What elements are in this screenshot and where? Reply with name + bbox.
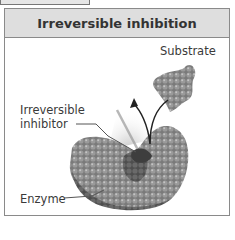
- substrate-label: Substrate: [160, 44, 216, 58]
- substrate-molecule: [153, 65, 195, 112]
- enzyme-label: Enzyme: [20, 192, 66, 206]
- inhibitor-label-line1: Irreversible: [20, 103, 85, 117]
- inhibitor-label-line2: inhibitor: [20, 117, 68, 131]
